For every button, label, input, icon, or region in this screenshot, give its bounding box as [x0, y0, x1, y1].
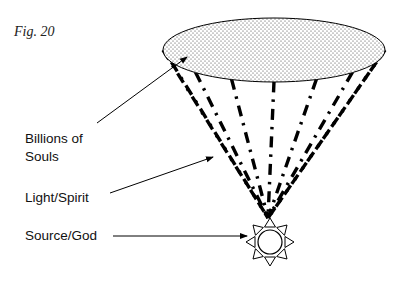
light-ray [268, 81, 274, 218]
arrow-souls [97, 57, 187, 123]
sun-ray-triangle [265, 257, 276, 266]
sun-core [258, 230, 282, 254]
light-ray [268, 72, 353, 218]
light-ray [232, 79, 269, 218]
sun-icon [246, 218, 294, 266]
diagram: Fig. 20 Billions of Souls Light/Spirit S… [0, 0, 405, 282]
sun-ray-triangle [246, 237, 255, 248]
sun-ray-triangle [285, 237, 294, 248]
souls-ellipse [163, 18, 385, 82]
arrow-light [110, 157, 213, 193]
label-light-spirit: Light/Spirit [25, 190, 89, 205]
figure-label: Fig. 20 [13, 24, 54, 39]
light-ray [268, 62, 377, 218]
light-ray [196, 72, 269, 218]
label-souls: Souls [25, 149, 59, 164]
light-ray [171, 62, 268, 218]
label-source-god: Source/God [25, 228, 97, 243]
sun-ray-triangle [265, 218, 276, 227]
label-billions-of: Billions of [25, 131, 83, 146]
